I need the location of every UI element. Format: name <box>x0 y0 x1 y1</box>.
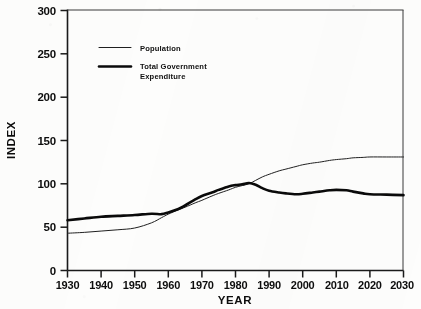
y-tick-label-300: 300 <box>37 5 56 17</box>
y-tick-label-0: 0 <box>50 265 56 277</box>
chart-figure: 300 250 200 150 100 50 0 INDEX <box>0 0 421 309</box>
legend: Population Total Government Expenditure <box>99 44 207 81</box>
series-line-population <box>68 157 404 233</box>
x-axis-ticks: 1930 1940 1950 1960 1970 1980 1990 2000 … <box>56 271 414 292</box>
y-tick-label-200: 200 <box>37 91 56 103</box>
plot-frame <box>68 10 404 271</box>
x-tick-label-1980: 1980 <box>224 279 248 291</box>
x-tick-label-1960: 1960 <box>156 279 180 291</box>
y-axis-ticks: 300 250 200 150 100 50 0 <box>37 5 67 277</box>
legend-label-total-government-expenditure-line1: Total Government <box>140 62 207 71</box>
legend-label-population: Population <box>140 44 181 53</box>
x-tick-label-2010: 2010 <box>325 279 349 291</box>
y-tick-label-50: 50 <box>44 221 56 233</box>
y-tick-label-250: 250 <box>37 48 56 60</box>
y-tick-label-100: 100 <box>37 178 56 190</box>
series-group <box>68 157 404 233</box>
x-tick-label-2020: 2020 <box>358 279 382 291</box>
x-tick-label-1950: 1950 <box>123 279 147 291</box>
x-tick-label-2000: 2000 <box>291 279 315 291</box>
legend-label-total-government-expenditure-line2: Expenditure <box>140 72 186 81</box>
x-tick-label-1930: 1930 <box>56 279 80 291</box>
x-tick-label-2030: 2030 <box>390 279 414 291</box>
x-tick-label-1940: 1940 <box>89 279 113 291</box>
index-line-chart: 300 250 200 150 100 50 0 INDEX <box>0 0 421 309</box>
y-axis-title: INDEX <box>5 121 17 159</box>
x-axis-title: YEAR <box>218 294 252 306</box>
series-line-total-government-expenditure <box>68 183 404 220</box>
x-tick-label-1970: 1970 <box>190 279 214 291</box>
x-tick-label-1990: 1990 <box>257 279 281 291</box>
y-tick-label-150: 150 <box>37 135 56 147</box>
